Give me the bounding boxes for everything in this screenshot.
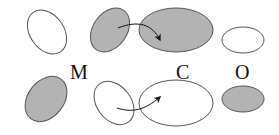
state-diagram: M C O — [0, 0, 279, 135]
top-c-ellipse — [139, 8, 213, 52]
bottom-left-ellipse — [16, 68, 75, 130]
bottom-o-ellipse — [222, 86, 264, 112]
top-left-ellipse — [19, 3, 74, 62]
top-m-ellipse — [82, 1, 137, 60]
bottom-c-ellipse — [139, 80, 213, 126]
top-o-ellipse — [222, 27, 264, 53]
label-o: O — [235, 61, 249, 83]
bottom-m-ellipse — [86, 74, 142, 133]
label-m: M — [70, 61, 88, 83]
